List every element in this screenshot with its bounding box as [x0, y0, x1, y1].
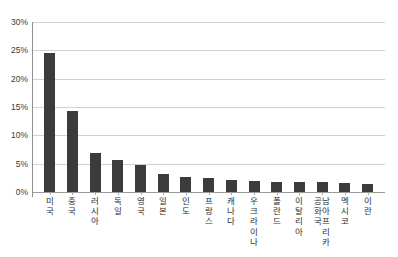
x-axis-label-char: 인: [182, 196, 190, 206]
x-axis-label-char: 란: [364, 206, 372, 216]
bar-slot: [84, 22, 107, 192]
bar-slot: [356, 22, 379, 192]
bar-chart: 30%25%20%15%10%5%0% 미국중국러시아독일영국일본인도프랑스캐나…: [0, 0, 398, 257]
x-axis-label-column: 인도: [182, 196, 190, 216]
x-axis-label-char: 이: [250, 227, 258, 237]
x-axis-label-char: 본: [159, 206, 167, 216]
x-axis-tick: [299, 192, 300, 195]
x-axis-label-char: 카: [322, 237, 330, 247]
x-axis-label-char: 아: [91, 216, 99, 226]
x-axis-tick-labels: 미국중국러시아독일영국일본인도프랑스캐나다우크라이나폴란드이탈리아남아프리카공화…: [32, 196, 385, 257]
x-axis-tick: [368, 192, 369, 195]
x-axis-label-char: 멕: [341, 196, 349, 206]
y-axis-tick-label: 25%: [11, 46, 28, 55]
x-axis-label-column: 이탈리아: [295, 196, 303, 237]
bar[interactable]: [362, 184, 373, 193]
bar-slot: [106, 22, 129, 192]
x-axis-label-char: 프: [205, 196, 213, 206]
x-axis-label-char: 화: [314, 206, 322, 216]
bar[interactable]: [203, 178, 214, 192]
x-axis-label-char: 나: [250, 237, 258, 247]
x-axis-label-column: 캐나다: [227, 196, 235, 227]
x-axis-tick: [95, 192, 96, 195]
x-axis-label-char: 프: [322, 216, 330, 226]
bar-slot: [265, 22, 288, 192]
bar[interactable]: [112, 160, 123, 192]
x-axis-label-char: 국: [314, 216, 322, 226]
bar-slot: [152, 22, 175, 192]
x-axis-label-char: 국: [137, 206, 145, 216]
bar[interactable]: [135, 165, 146, 192]
bar[interactable]: [67, 111, 78, 192]
x-axis-tick: [345, 192, 346, 195]
x-axis-label-char: 중: [68, 196, 76, 206]
x-axis-tick: [186, 192, 187, 195]
bar-slot: [333, 22, 356, 192]
x-axis-tick: [209, 192, 210, 195]
y-axis-tick-label: 10%: [11, 131, 28, 140]
x-axis-tick: [322, 192, 323, 195]
x-axis-label-column: 프랑스: [205, 196, 213, 227]
x-axis-tick: [277, 192, 278, 195]
x-axis-label-char: 캐: [227, 196, 235, 206]
bar[interactable]: [90, 153, 101, 192]
x-axis-label-char: 시: [341, 206, 349, 216]
x-axis-label-char: 다: [227, 216, 235, 226]
x-axis-label-char: 스: [205, 216, 213, 226]
x-axis-label-char: 폴: [273, 196, 281, 206]
bar[interactable]: [180, 177, 191, 192]
bar-slot: [220, 22, 243, 192]
x-axis-tick: [50, 192, 51, 195]
x-axis-label-char: 아: [322, 206, 330, 216]
y-axis-tick-label: 30%: [11, 18, 28, 27]
x-axis-label-column: 이란: [364, 196, 372, 216]
x-axis-label-column: 미국: [46, 196, 54, 216]
x-axis-label-char: 일: [159, 196, 167, 206]
bar-slot: [175, 22, 198, 192]
x-axis-label-column: 폴란드: [273, 196, 281, 227]
x-axis-label-char: 이: [295, 196, 303, 206]
y-axis-tick-label: 5%: [16, 160, 28, 169]
y-axis-tick-label: 15%: [11, 103, 28, 112]
bar-slot: [311, 22, 334, 192]
x-axis-tick: [72, 192, 73, 195]
x-axis-label-char: 러: [91, 196, 99, 206]
x-axis-tick: [163, 192, 164, 195]
x-axis-label-column: 일본: [159, 196, 167, 216]
bar-slot: [61, 22, 84, 192]
bar-slot: [129, 22, 152, 192]
bar-series: [32, 22, 385, 192]
bar[interactable]: [226, 180, 237, 192]
x-axis-label-column: 멕시코: [341, 196, 349, 227]
bar-slot: [38, 22, 61, 192]
bar[interactable]: [44, 53, 55, 192]
x-axis-tick-label: 이란: [355, 196, 381, 216]
x-axis-label-char: 도: [182, 206, 190, 216]
x-axis-label-char: 크: [250, 206, 258, 216]
bar[interactable]: [339, 183, 350, 192]
bar-slot: [288, 22, 311, 192]
x-axis-label-char: 드: [273, 216, 281, 226]
bar[interactable]: [249, 181, 260, 192]
bar[interactable]: [294, 182, 305, 192]
x-axis-label-column: 우크라이나: [250, 196, 258, 247]
x-axis-tick: [231, 192, 232, 195]
bar[interactable]: [317, 182, 328, 192]
x-axis-label-char: 남: [322, 196, 330, 206]
x-axis-label-column: 영국: [137, 196, 145, 216]
x-axis-label-char: 미: [46, 196, 54, 206]
x-axis-label-char: 코: [341, 216, 349, 226]
bar[interactable]: [158, 174, 169, 192]
x-axis-label-char: 란: [273, 206, 281, 216]
x-axis-label-column: 남아프리카: [322, 196, 330, 247]
x-axis-tick: [141, 192, 142, 195]
x-axis-label-column: 중국: [68, 196, 76, 216]
x-axis-label-char: 공: [314, 196, 322, 206]
x-axis-label-char: 리: [295, 216, 303, 226]
x-axis-label-column: 러시아: [91, 196, 99, 227]
x-axis-label-char: 랑: [205, 206, 213, 216]
x-axis-label-char: 아: [295, 227, 303, 237]
x-axis-label-char: 이: [364, 196, 372, 206]
x-axis-label-char: 국: [68, 206, 76, 216]
bar[interactable]: [271, 182, 282, 192]
